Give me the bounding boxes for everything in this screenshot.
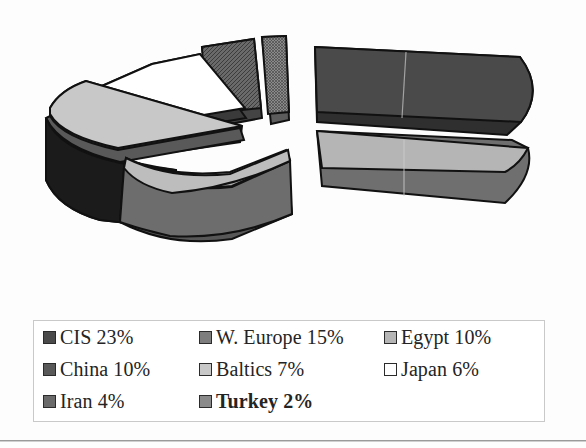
legend-label-iran: Iran 4% <box>60 391 125 411</box>
figure-container: CIS 23% W. Europe 15% Egypt 10% China 10… <box>0 0 586 448</box>
legend-swatch-iran <box>43 395 56 408</box>
legend-label-baltics: Baltics 7% <box>216 359 304 379</box>
legend-item-egypt: Egypt 10% <box>384 327 491 347</box>
pie-slice-w-europe <box>120 150 292 241</box>
legend-label-turkey: Turkey 2% <box>216 391 313 411</box>
legend-label-japan: Japan 6% <box>401 359 479 379</box>
exploded-3d-pie-chart <box>0 0 586 300</box>
legend-item-china: China 10% <box>43 359 150 379</box>
legend-label-cis: CIS 23% <box>60 327 133 347</box>
legend-item-w-europe: W. Europe 15% <box>199 327 344 347</box>
pie-slice-egypt <box>317 131 529 203</box>
legend-item-iran: Iran 4% <box>43 391 125 411</box>
pie-slice-cis <box>315 47 533 135</box>
legend-swatch-china <box>43 363 56 376</box>
legend-item-turkey: Turkey 2% <box>199 391 313 411</box>
legend-item-cis: CIS 23% <box>43 327 133 347</box>
legend-item-japan: Japan 6% <box>384 359 479 379</box>
legend-label-w-europe: W. Europe 15% <box>216 327 344 347</box>
legend-item-baltics: Baltics 7% <box>199 359 304 379</box>
pie-slice-turkey <box>262 36 289 124</box>
legend-label-china: China 10% <box>60 359 150 379</box>
legend-swatch-cis <box>43 331 56 344</box>
legend-swatch-egypt <box>384 331 397 344</box>
chart-legend: CIS 23% W. Europe 15% Egypt 10% China 10… <box>33 320 545 422</box>
legend-swatch-w-europe <box>199 331 212 344</box>
legend-swatch-japan <box>384 363 397 376</box>
legend-swatch-baltics <box>199 363 212 376</box>
pie-chart-area <box>0 0 586 300</box>
legend-swatch-turkey <box>199 395 212 408</box>
page-bottom-rule <box>0 440 586 442</box>
legend-label-egypt: Egypt 10% <box>401 327 491 347</box>
